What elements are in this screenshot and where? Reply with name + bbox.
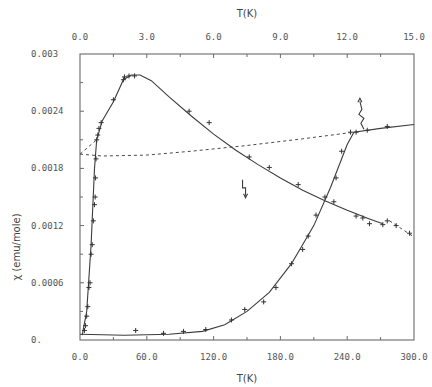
data-point-marker <box>122 74 127 79</box>
y-tick-label: 0.003 <box>31 49 58 59</box>
x2-tick-label: 0.0 <box>72 32 88 42</box>
bottom-axis-title: T(K) <box>236 373 258 384</box>
chart: 0.060.0120.0180.0240.0300.00.03.06.09.01… <box>0 0 432 387</box>
data-point-marker <box>207 120 212 125</box>
data-point-marker <box>385 218 390 223</box>
data-point-marker <box>394 223 399 228</box>
y-tick-label: 0.0012 <box>31 221 64 231</box>
x-tick-label: 300.0 <box>400 352 427 362</box>
fit-curve <box>80 140 97 154</box>
y-axis-title: χ (emu/mole) <box>11 213 22 280</box>
data-point-marker <box>247 154 252 159</box>
fit-curve <box>80 125 414 336</box>
x2-tick-label: 12.0 <box>336 32 358 42</box>
axes: 0.060.0120.0180.0240.0300.00.03.06.09.01… <box>31 32 428 362</box>
data-point-marker <box>121 77 126 82</box>
annotation-arrow-icon <box>243 180 246 196</box>
x2-tick-label: 9.0 <box>272 32 288 42</box>
data-point-marker <box>367 221 372 226</box>
data-point-marker <box>89 252 94 257</box>
plot-area <box>80 73 414 335</box>
x-tick-label: 240.0 <box>334 352 361 362</box>
data-point-marker <box>354 130 359 135</box>
x2-tick-label: 6.0 <box>205 32 221 42</box>
fit-curve <box>82 75 383 335</box>
data-point-marker <box>99 120 104 125</box>
x-tick-label: 120.0 <box>200 352 227 362</box>
data-point-marker <box>95 133 100 138</box>
data-point-marker <box>86 285 91 290</box>
fit-curve <box>390 221 415 237</box>
data-point-marker <box>267 165 272 170</box>
data-point-marker <box>94 156 99 161</box>
data-point-marker <box>132 73 137 78</box>
x-tick-label: 180.0 <box>267 352 294 362</box>
x-tick-label: 0.0 <box>72 352 88 362</box>
y-tick-label: 0.0018 <box>31 163 64 173</box>
y-tick-label: 0.0024 <box>31 106 64 116</box>
data-point-marker <box>133 328 138 333</box>
data-point-marker <box>365 128 370 133</box>
data-point-marker <box>161 331 166 336</box>
y-tick-label: 0.0006 <box>31 278 64 288</box>
top-axis-title: T(K) <box>236 8 258 19</box>
x2-tick-label: 15.0 <box>403 32 425 42</box>
x2-tick-label: 3.0 <box>139 32 155 42</box>
x-tick-label: 60.0 <box>136 352 158 362</box>
plot-frame <box>80 54 414 340</box>
data-point-marker <box>261 299 266 304</box>
fit-curve <box>80 132 354 156</box>
annotation-arrow-icon <box>359 101 364 129</box>
data-point-marker <box>85 304 90 309</box>
y-tick-label: 0. <box>31 335 42 345</box>
axis-labels: T(K) T(K) χ (emu/mole) <box>11 8 257 384</box>
